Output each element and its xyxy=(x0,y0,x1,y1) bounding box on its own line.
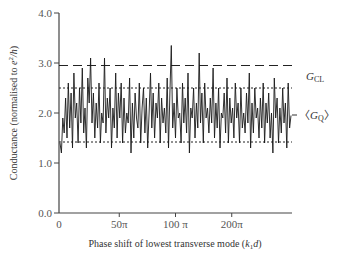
x-tick-label: 100 π xyxy=(163,218,188,230)
y-ticks: 0.01.02.03.04.0 xyxy=(38,7,59,219)
x-axis-label: Phase shift of lowest transverse mode (k… xyxy=(89,238,262,251)
y-tick-label: 0.0 xyxy=(38,207,52,219)
y-tick-label: 1.0 xyxy=(38,157,52,169)
chart: 0.01.02.03.04.0 050π100 π200π GCL 〈GQ〉 P… xyxy=(0,0,338,258)
y-axis-label: Conductance (normalised to e2/h) xyxy=(7,46,20,180)
annotation-mean-gq: 〈GQ〉 xyxy=(299,109,335,123)
x-tick-label: 200π xyxy=(221,218,244,230)
x-tick-label: 50π xyxy=(111,218,128,230)
reference-label-g-cl: GCL xyxy=(306,70,324,84)
series-line-conductance xyxy=(60,46,291,154)
y-tick-label: 3.0 xyxy=(38,57,52,69)
y-tick-label: 2.0 xyxy=(38,107,52,119)
annotations: 〈GQ〉 xyxy=(292,109,335,123)
y-tick-label: 4.0 xyxy=(38,7,52,19)
x-tick-label: 0 xyxy=(56,218,62,230)
x-ticks: 050π100 π200π xyxy=(56,213,243,230)
